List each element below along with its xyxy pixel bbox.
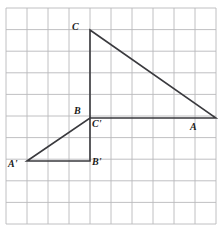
figure-canvas	[0, 0, 218, 230]
vertex-label-b: B	[74, 106, 81, 116]
triangle-a-prime-b-prime-c-prime	[27, 118, 90, 161]
vertex-label-a-prime: A'	[8, 159, 17, 169]
vertex-label-c-prime: C'	[92, 119, 101, 129]
grid-layer	[6, 8, 216, 224]
shape-layer	[27, 30, 216, 161]
vertex-label-a: A	[190, 122, 197, 132]
vertex-label-c: C	[72, 22, 79, 32]
vertex-label-b-prime: B'	[92, 157, 101, 167]
geometry-figure: CABC'A'B'	[0, 0, 218, 230]
